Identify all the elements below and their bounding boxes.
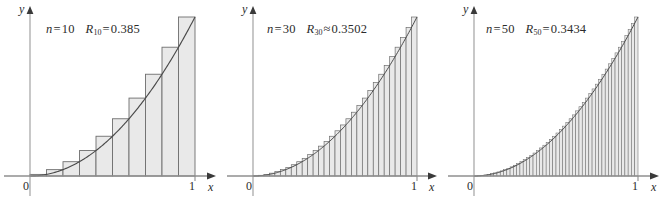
riemann-bar <box>628 29 631 176</box>
riemann-bar <box>412 17 417 176</box>
riemann-bar <box>586 98 589 176</box>
riemann-bar <box>612 58 615 176</box>
annotation-n-relation: = <box>273 22 282 36</box>
riemann-bar <box>635 17 638 176</box>
x-tick-label-one: 1 <box>189 179 195 194</box>
y-axis-label: y <box>242 2 247 17</box>
x-tick-label-one: 1 <box>632 179 638 194</box>
riemann-bar <box>179 17 196 176</box>
x-axis-arrowhead-icon <box>650 172 659 179</box>
annotation-n-value: 10 <box>62 22 75 36</box>
riemann-bar <box>368 90 373 176</box>
x-axis-label: x <box>208 180 213 195</box>
riemann-bar <box>96 136 113 176</box>
riemann-bar <box>80 151 97 176</box>
riemann-bar <box>530 155 533 176</box>
riemann-bar <box>379 74 384 176</box>
annotation-r-relation: ≈ <box>322 22 331 36</box>
panel-annotation-n50: n=50R50=0.3434 <box>486 22 586 37</box>
riemann-bar <box>523 160 526 176</box>
origin-tick-label: 0 <box>23 179 29 194</box>
panel-annotation-n30: n=30R30≈0.3502 <box>267 22 367 37</box>
riemann-bar <box>395 47 400 176</box>
origin-tick-label: 0 <box>467 179 473 194</box>
riemann-bar <box>346 119 351 176</box>
chart-panel-n10: n=10R10=0.385 y x 0 1 <box>0 0 222 204</box>
riemann-bar <box>543 145 546 176</box>
annotation-n-relation: = <box>52 22 61 36</box>
annotation-r-value: 0.385 <box>111 22 140 36</box>
riemann-bar <box>595 84 598 176</box>
x-tick-label-one: 1 <box>411 179 417 194</box>
x-axis-arrowhead-icon <box>428 172 437 179</box>
riemann-bar <box>373 83 378 176</box>
riemann-bar <box>357 105 362 176</box>
riemann-bar <box>553 136 556 176</box>
bars-group-n10 <box>30 17 195 176</box>
y-axis-label: y <box>19 2 24 17</box>
origin-tick-label: 0 <box>246 179 252 194</box>
riemann-bar <box>608 64 611 176</box>
riemann-bar <box>319 146 324 176</box>
annotation-r-relation: = <box>101 22 110 36</box>
riemann-bar <box>625 36 628 176</box>
bars-group-n50 <box>474 17 638 176</box>
riemann-bar <box>569 119 572 176</box>
riemann-bar <box>589 94 592 176</box>
riemann-bar <box>129 98 146 176</box>
riemann-bar <box>406 27 411 176</box>
riemann-bar <box>559 130 562 176</box>
riemann-bar <box>546 142 549 176</box>
bars-group-n30 <box>253 17 417 176</box>
annotation-n-value: 50 <box>502 22 515 36</box>
annotation-r-relation: = <box>541 22 550 36</box>
x-axis-arrowhead-icon <box>207 172 216 179</box>
riemann-bar <box>549 139 552 176</box>
riemann-bar <box>533 153 536 176</box>
riemann-bar <box>622 41 625 176</box>
riemann-bar <box>536 151 539 176</box>
riemann-bar <box>579 107 582 176</box>
annotation-r-value: 0.3434 <box>551 22 587 36</box>
riemann-bar <box>602 74 605 176</box>
chart-panel-n50: n=50R50=0.3434 y x 0 1 <box>442 0 664 204</box>
riemann-sum-figure: n=10R10=0.385 y x 0 1 n=30R30≈0.3502 y x… <box>0 0 665 204</box>
riemann-bar <box>566 123 569 176</box>
riemann-bar <box>582 102 585 176</box>
riemann-bar <box>351 112 356 176</box>
panel-annotation-n10: n=10R10=0.385 <box>46 22 140 37</box>
riemann-bar <box>540 148 543 176</box>
riemann-bar <box>563 126 566 176</box>
riemann-bar <box>599 79 602 176</box>
y-axis-arrowhead-icon <box>250 6 257 14</box>
riemann-bar <box>330 136 335 176</box>
riemann-bar <box>362 98 367 176</box>
annotation-n-value: 30 <box>283 22 296 36</box>
riemann-bar <box>592 89 595 176</box>
chart-panel-n30: n=30R30≈0.3502 y x 0 1 <box>221 0 443 204</box>
riemann-bar <box>401 38 406 177</box>
annotation-n-relation: = <box>492 22 501 36</box>
riemann-bar <box>615 53 618 176</box>
riemann-bar <box>384 66 389 176</box>
y-axis-label: y <box>463 2 468 17</box>
riemann-bar <box>390 57 395 176</box>
riemann-bar <box>324 141 329 176</box>
riemann-bar <box>576 111 579 176</box>
riemann-bar <box>335 131 340 176</box>
annotation-r-value: 0.3502 <box>332 22 368 36</box>
y-axis-arrowhead-icon <box>471 6 478 14</box>
riemann-bar <box>162 47 179 176</box>
riemann-bar <box>526 158 529 176</box>
riemann-bar <box>605 69 608 176</box>
x-axis-label: x <box>651 180 656 195</box>
riemann-bar <box>572 115 575 176</box>
riemann-bar <box>618 47 621 176</box>
riemann-bar <box>146 74 163 176</box>
riemann-bar <box>556 133 559 176</box>
riemann-bar <box>520 162 523 176</box>
y-axis-arrowhead-icon <box>27 6 34 14</box>
riemann-bar <box>340 125 345 176</box>
riemann-bar <box>631 23 634 176</box>
x-axis-label: x <box>429 180 434 195</box>
